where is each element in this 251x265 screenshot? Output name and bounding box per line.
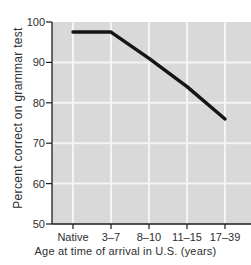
y-tick-label: 80 <box>19 98 45 109</box>
x-axis-title: Age at time of arrival in U.S. (years) <box>0 245 251 257</box>
y-axis-title: Percent correct on grammar test <box>11 3 27 233</box>
y-tick-label: 50 <box>19 219 45 230</box>
plot-background <box>52 22 251 224</box>
y-tick-label: 90 <box>19 57 45 68</box>
y-tick-label: 70 <box>19 138 45 149</box>
x-tick-label: 17–39 <box>203 232 247 243</box>
y-tick-label: 60 <box>19 179 45 190</box>
y-tick-label: 100 <box>19 17 45 28</box>
grammar-test-line-chart: Percent correct on grammar test Age at t… <box>0 0 251 265</box>
